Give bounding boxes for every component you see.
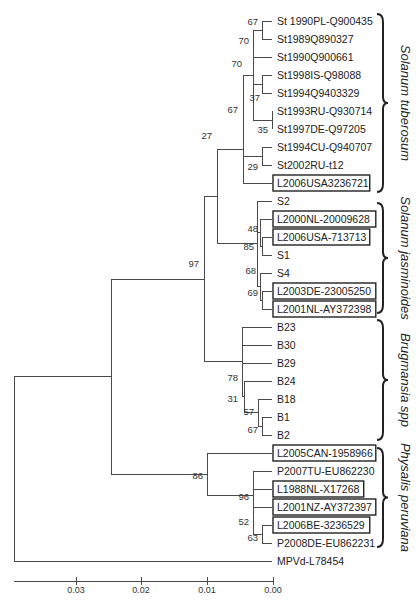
bootstrap-value: 86 <box>192 470 203 481</box>
leaf-label: B29 <box>277 357 296 369</box>
scale-axis: 0.030.020.010.00 <box>14 577 282 595</box>
leaf-label: St1998IS-Q98088 <box>277 69 361 81</box>
leaf-label: L2005CAN-1958966 <box>277 447 373 459</box>
bootstrap-value: 35 <box>257 124 268 135</box>
scale-tick-label: 0.00 <box>264 585 282 595</box>
leaf-label: S2 <box>277 195 290 207</box>
leaf-label: L2006USA-713713 <box>277 231 366 243</box>
scale-tick-label: 0.03 <box>67 585 85 595</box>
bootstrap-value: 70 <box>231 58 242 69</box>
bootstrap-value: 52 <box>238 516 249 527</box>
leaf-label: L2006USA3236721 <box>277 177 369 189</box>
clade-label: Brugmansia spp <box>398 333 413 427</box>
clade-label: Physalis peruviana <box>398 443 413 552</box>
scale-tick-label: 0.01 <box>198 585 216 595</box>
leaf-label: L2001NL-AY372398 <box>277 303 372 315</box>
bootstrap-value: 37 <box>249 92 260 103</box>
leaf-label: B23 <box>277 321 296 333</box>
tree-branches <box>14 21 272 561</box>
leaf-label: B24 <box>277 375 296 387</box>
leaf-label: L2001NZ-AY372397 <box>277 501 372 513</box>
leaf-label: L2000NL-20009628 <box>277 213 370 225</box>
bootstrap-value: 85 <box>243 241 254 252</box>
clade-brace <box>377 203 388 313</box>
bootstrap-value: 63 <box>247 532 258 543</box>
bootstrap-value: 57 <box>243 406 254 417</box>
phylogenetic-tree: St 1990PL-Q900435St1989Q890327St1990Q900… <box>0 0 416 607</box>
bootstrap-value: 67 <box>247 16 258 27</box>
bootstrap-value: 70 <box>238 35 249 46</box>
leaf-label: P2007TU-EU862230 <box>277 465 375 477</box>
leaf-label: P2008DE-EU862231 <box>277 537 375 549</box>
leaf-label: St1994Q9403329 <box>277 87 359 99</box>
bootstrap-value: 29 <box>247 161 258 172</box>
bootstrap-value: 27 <box>201 130 212 141</box>
bootstrap-value: 31 <box>227 393 238 404</box>
leaf-label: B30 <box>277 339 296 351</box>
bootstrap-value: 67 <box>247 424 258 435</box>
clade-annotations: Solanum tuberosumSolanum jasminoidesBrug… <box>377 14 413 552</box>
leaf-label: L2006BE-3236529 <box>277 519 365 531</box>
leaf-label: St2002RU-t12 <box>277 159 344 171</box>
leaf-label: S4 <box>277 267 290 279</box>
clade-brace <box>377 14 388 192</box>
leaf-label: St 1990PL-Q900435 <box>277 15 373 27</box>
leaf-label: L1988NL-X17268 <box>277 483 359 495</box>
leaf-label: L2003DE-23005250 <box>277 285 371 297</box>
leaf-label: B1 <box>277 411 290 423</box>
clade-label: Solanum tuberosum <box>398 45 413 162</box>
leaf-label: S1 <box>277 249 290 261</box>
bootstrap-value: 68 <box>245 265 256 276</box>
leaf-labels: St 1990PL-Q900435St1989Q890327St1990Q900… <box>273 15 376 567</box>
clade-label: Solanum jasminoides <box>398 196 413 320</box>
scale-tick-label: 0.02 <box>132 585 150 595</box>
leaf-label: St1989Q890327 <box>277 33 354 45</box>
bootstrap-value: 78 <box>227 372 238 383</box>
leaf-label: St1993RU-Q930714 <box>277 105 372 117</box>
leaf-label: St1990Q900661 <box>277 51 354 63</box>
bootstrap-value: 96 <box>238 491 249 502</box>
bootstrap-value: 67 <box>227 104 238 115</box>
leaf-label: B2 <box>277 429 290 441</box>
leaf-label: St1997DE-Q97205 <box>277 123 366 135</box>
bootstrap-value: 69 <box>247 287 258 298</box>
clade-brace <box>377 448 388 547</box>
clade-brace <box>377 320 388 440</box>
leaf-label: St1994CU-Q940707 <box>277 141 372 153</box>
leaf-label: B18 <box>277 393 296 405</box>
bootstrap-value: 48 <box>247 223 258 234</box>
leaf-label: MPVd-L78454 <box>277 555 344 567</box>
bootstrap-value: 97 <box>188 258 199 269</box>
